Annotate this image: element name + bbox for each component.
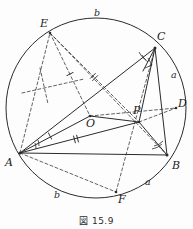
arc-label-bottom-right: a — [145, 177, 151, 187]
point-label-O: O — [86, 118, 95, 129]
vertex-dot-P — [138, 121, 141, 124]
point-label-C: C — [157, 31, 165, 42]
arc-label-right: a — [171, 70, 177, 80]
vertex-dot-E — [49, 32, 52, 35]
tick-marks — [48, 72, 97, 142]
vertex-dot-F — [115, 191, 118, 194]
point-label-P: P — [133, 105, 140, 116]
segment-AO — [20, 116, 90, 153]
figure-caption: 図 15.9 — [0, 214, 193, 229]
point-label-D: D — [178, 98, 187, 109]
segment-OP — [90, 116, 139, 122]
chord-AC — [20, 48, 155, 153]
vertex-dot-B — [166, 154, 169, 157]
chord-AB — [20, 153, 167, 155]
circumcircle — [6, 18, 186, 198]
angle-arc-at-A — [35, 143, 36, 149]
point-label-E: E — [40, 18, 48, 29]
tick-double-AP — [74, 135, 79, 143]
segment-AP — [20, 122, 139, 153]
point-label-B: B — [172, 160, 180, 171]
arc-label-bottom-left: b — [54, 190, 60, 200]
dashed-perp-cross — [40, 68, 48, 104]
vertex-dot-C — [154, 47, 157, 50]
vertex-dot-A — [19, 152, 22, 155]
arc-label-top: b — [94, 8, 100, 18]
segment-PB — [139, 122, 167, 155]
dashed-AE — [20, 33, 50, 153]
chord-CB — [155, 48, 167, 155]
geometry-figure: A B C D E F O P b a b a 図 15.9 — [0, 0, 193, 229]
dashed-AF — [20, 153, 116, 192]
point-label-A: A — [5, 157, 13, 168]
tick-single-EO — [67, 72, 73, 75]
vertex-dot-D — [175, 107, 178, 110]
point-label-F: F — [118, 194, 126, 205]
dashed-EB — [50, 33, 167, 155]
dashed-perp-left — [22, 79, 84, 93]
